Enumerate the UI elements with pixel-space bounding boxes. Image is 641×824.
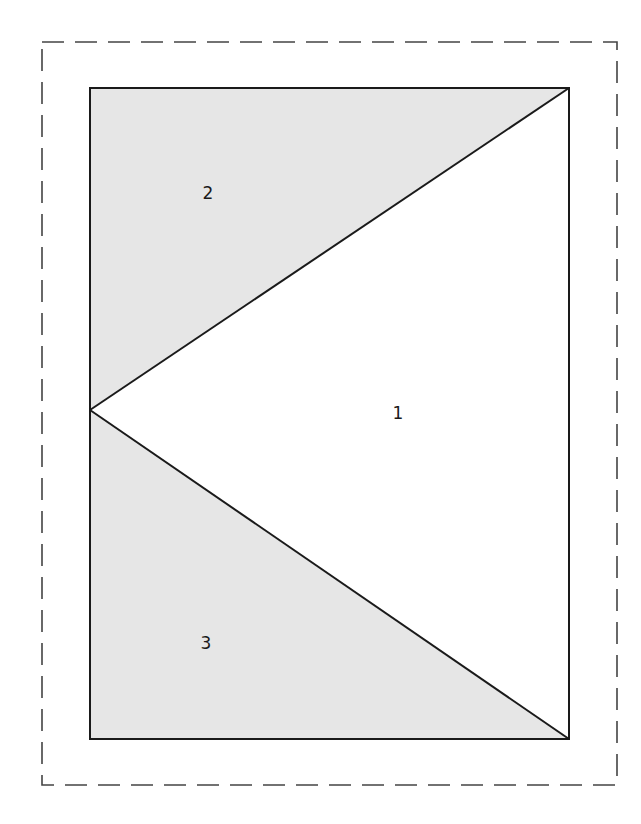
piece-label-2: 2 xyxy=(203,183,214,203)
piece-label-1: 1 xyxy=(393,403,404,423)
quilt-template-diagram: 2 1 3 xyxy=(0,0,641,824)
piece-label-3: 3 xyxy=(201,633,212,653)
